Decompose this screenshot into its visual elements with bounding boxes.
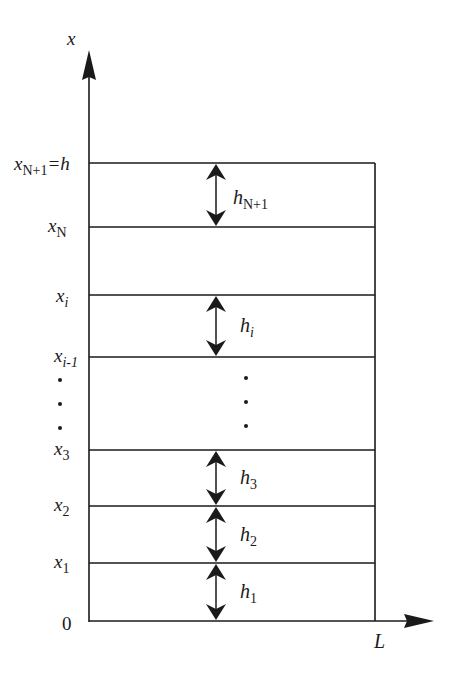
vertical-axis-label: x <box>66 28 76 49</box>
layer-label-h3: h3 <box>240 466 257 492</box>
boundary-label-x2: x2 <box>53 494 69 519</box>
layer-label-hN1: hN+1 <box>233 186 268 212</box>
boundary-label-x3: x3 <box>53 438 69 463</box>
double-arrow-icon <box>206 451 226 505</box>
vertical-axis: x <box>66 28 96 622</box>
horizontal-axis-arrowhead-icon <box>404 614 434 628</box>
origin-label: 0 <box>62 613 72 634</box>
horizontal-axis-label: L <box>373 630 385 652</box>
double-arrow-icon <box>206 296 226 356</box>
ellipsis-dots-middle <box>244 376 248 428</box>
horizontal-axis: L 0 <box>62 613 434 652</box>
boundary-labels: xN+1=h xN xi xi-1 x3 x2 x1 <box>13 153 78 576</box>
double-arrow-icon <box>206 507 226 562</box>
layer-thickness-arrows <box>206 164 248 620</box>
boundary-label-x1: x1 <box>53 551 69 576</box>
layered-domain-diagram: x L 0 xN+1=h xN xi xi-1 x3 x2 x1 <box>0 0 457 677</box>
double-arrow-icon <box>206 564 226 620</box>
layer-boundaries <box>89 163 375 563</box>
layer-label-h2: h2 <box>240 523 257 549</box>
boundary-label-xN: xN <box>47 215 67 240</box>
ellipsis-dots-left <box>58 378 62 430</box>
layer-labels: hN+1 hi h3 h2 h1 <box>233 186 268 606</box>
boundary-label-xi: xi <box>55 285 68 310</box>
layer-label-hi: hi <box>240 314 254 340</box>
layer-label-h1: h1 <box>240 580 257 606</box>
boundary-label-xN1: xN+1=h <box>13 153 70 178</box>
vertical-axis-arrowhead-icon <box>82 50 96 80</box>
double-arrow-icon <box>206 164 226 226</box>
boundary-label-xi-1: xi-1 <box>53 345 78 370</box>
